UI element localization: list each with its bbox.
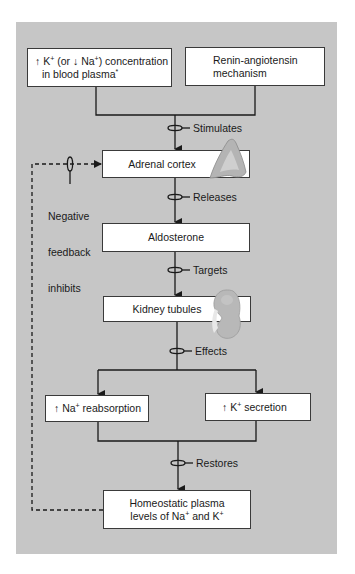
merge-connector-bottom — [98, 420, 256, 441]
node-k-secretion: ↑ K+ secretion — [205, 393, 311, 421]
node-plasma-concentration: ↑ K+ (or ↓ Na+) concentration in blood p… — [27, 48, 172, 87]
footnote-asterisk: * — [116, 68, 119, 75]
negative-feedback-label: Negative feedback inhibits — [48, 186, 91, 318]
node-kidney-tubules: Kidney tubules — [103, 296, 251, 322]
node-na-reabsorption: ↑ Na+ reabsorption — [45, 395, 149, 422]
merge-connector-top — [96, 85, 255, 115]
node-renin-angiotensin: Renin-angiotensin mechanism — [185, 47, 325, 86]
increase-arrow-icon: ↑ — [54, 402, 59, 414]
node-homeostatic-levels: Homeostatic plasma levels of Na+ and K+ — [103, 490, 251, 529]
node-aldosterone: Aldosterone — [102, 223, 250, 252]
diagram-canvas: ↑ K+ (or ↓ Na+) concentration in blood p… — [0, 0, 355, 574]
edge-label-effects: Effects — [195, 345, 227, 357]
increase-arrow-icon: ↑ — [35, 55, 40, 67]
edge-label-releases: Releases — [193, 191, 237, 203]
node-adrenal-cortex: Adrenal cortex — [102, 150, 250, 178]
decrease-arrow-icon: ↓ — [73, 55, 78, 67]
edge-label-stimulates: Stimulates — [193, 122, 242, 134]
increase-arrow-icon: ↑ — [222, 401, 227, 413]
edge-label-restores: Restores — [196, 457, 238, 469]
edge-label-targets: Targets — [193, 264, 227, 276]
